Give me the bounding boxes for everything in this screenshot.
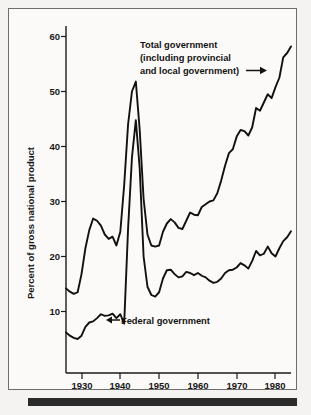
y-tick-label-30: 30 xyxy=(49,196,60,207)
y-tick-label-50: 50 xyxy=(49,86,60,97)
annotation-total-line3: and local government) xyxy=(140,66,239,76)
y-axis-label: Percent of gross national product xyxy=(25,146,36,299)
chart-figure: Percent of gross national product 60 50 … xyxy=(0,0,311,415)
annotation-total-line2: (including provincial xyxy=(140,53,231,63)
x-tick-label-1970: 1970 xyxy=(226,380,247,390)
y-tick-label-40: 40 xyxy=(49,141,60,152)
x-tick-label-1930: 1930 xyxy=(71,380,92,390)
arrow-right-icon xyxy=(246,67,267,74)
y-tick-label-10: 10 xyxy=(49,306,60,317)
x-tick-label-1950: 1950 xyxy=(148,380,169,390)
x-tick-label-1980: 1980 xyxy=(264,380,285,390)
government-spending-line-chart: Percent of gross national product 60 50 … xyxy=(8,8,297,390)
y-tick-label-60: 60 xyxy=(49,31,60,42)
series-line-federal-government xyxy=(66,120,291,339)
x-tick-label-1940: 1940 xyxy=(109,380,130,390)
annotation-total-line1: Total government xyxy=(140,40,217,50)
x-tick-label-1960: 1960 xyxy=(187,380,208,390)
series-line-total-government xyxy=(66,46,291,294)
bottom-rule xyxy=(28,398,297,406)
annotation-federal-label: Federal government xyxy=(121,316,210,326)
y-tick-label-20: 20 xyxy=(49,251,60,262)
